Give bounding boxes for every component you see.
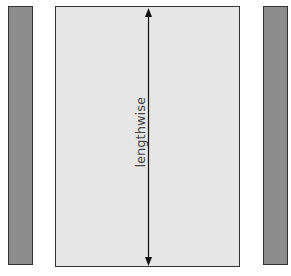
lengthwise-label: lengthwise [133, 98, 148, 168]
